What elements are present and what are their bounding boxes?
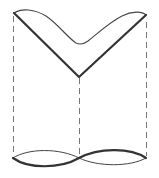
projection-diagram	[0, 0, 159, 178]
right-lobe-bottom	[79, 158, 146, 165]
v-surface	[14, 10, 146, 77]
diagram-canvas	[0, 0, 159, 178]
projection-lines	[14, 16, 147, 157]
right-lobe-top	[79, 150, 146, 158]
left-lobe-top	[13, 151, 79, 159]
v-surface-back-edge	[14, 10, 146, 44]
left-lobe-bottom	[13, 158, 79, 166]
v-surface-front-edge	[14, 13, 146, 77]
